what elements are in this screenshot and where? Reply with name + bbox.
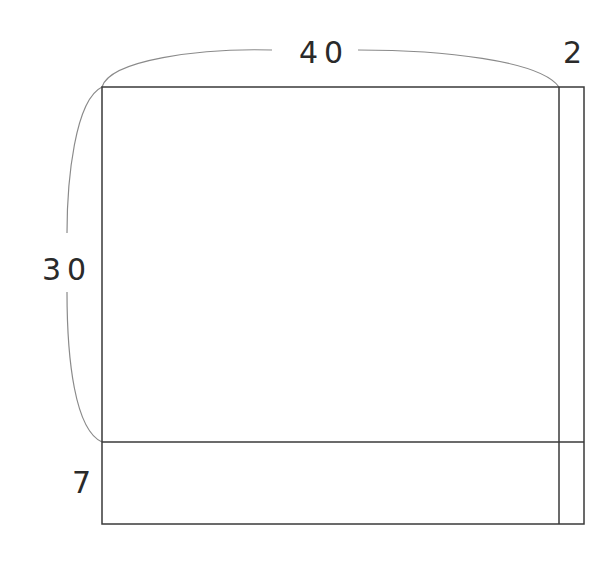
top-width-label: 40 [299,38,349,68]
diagram-canvas: 40 2 30 7 [0,0,614,574]
right-strip-width-label: 2 [563,38,588,68]
outer-rectangle [102,87,584,524]
bottom-strip-height-label: 7 [72,468,97,498]
left-height-label: 30 [42,255,92,285]
